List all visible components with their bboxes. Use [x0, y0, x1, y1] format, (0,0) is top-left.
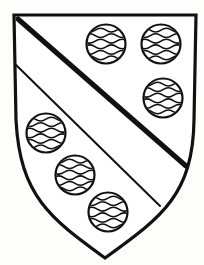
- fountain-5-icon: [54, 156, 97, 195]
- shield-illustration-canvas: A bend between six fountains: [0, 0, 204, 265]
- fountain-3-icon: [142, 79, 185, 118]
- fountain-6-icon: [87, 193, 130, 232]
- fountain-2-icon: [140, 25, 183, 64]
- fountain-1-icon: [85, 25, 128, 64]
- heraldic-shield-drawing: [0, 0, 204, 265]
- fountain-4-icon: [25, 114, 68, 153]
